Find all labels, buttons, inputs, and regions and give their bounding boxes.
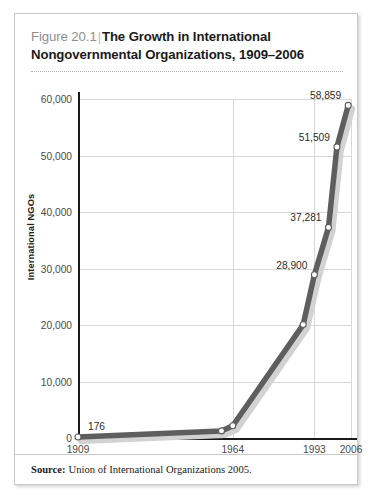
- source-line: Source:Union of International Organizati…: [31, 464, 252, 475]
- data-point-label: 28,900: [276, 259, 307, 270]
- data-point-label: 58,859: [310, 90, 341, 101]
- series-line: [78, 105, 348, 437]
- data-point-label: 37,281: [290, 212, 321, 223]
- data-point-marker: [326, 224, 332, 230]
- chart-plot: International NGOs 010,00020,00030,00040…: [15, 14, 359, 454]
- data-point-label: 51,509: [299, 131, 330, 142]
- series-markers: [75, 102, 351, 440]
- figure-card: Figure 20.1|The Growth in International …: [14, 13, 358, 485]
- data-point-label: 176: [88, 421, 105, 432]
- source-label: Source:: [31, 464, 66, 475]
- data-point-marker: [334, 144, 340, 150]
- data-point-marker: [311, 272, 317, 278]
- data-point-marker: [75, 434, 81, 440]
- data-point-marker: [300, 322, 306, 328]
- source-divider: [15, 454, 359, 455]
- line-series-svg: [15, 14, 359, 454]
- data-point-marker: [345, 102, 351, 108]
- data-point-marker: [230, 423, 236, 429]
- data-point-marker: [219, 428, 225, 434]
- source-text: Union of International Organizations 200…: [66, 464, 252, 475]
